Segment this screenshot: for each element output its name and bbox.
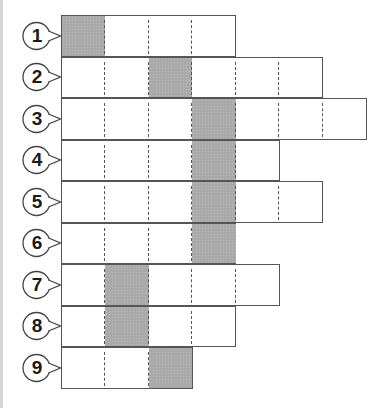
cell-divider [191, 20, 192, 54]
row-number-badge: 1 [22, 21, 62, 51]
row-number-label: 7 [23, 270, 51, 300]
cell-divider [278, 62, 279, 96]
cell-divider [104, 62, 105, 96]
row-number-label: 1 [23, 21, 51, 51]
cell-divider [148, 311, 149, 345]
cell-divider [148, 228, 149, 262]
cell-divider [104, 103, 105, 137]
row-number-label: 5 [23, 187, 51, 217]
cell-strip [61, 181, 323, 223]
row-number-label: 9 [23, 353, 51, 383]
cell-divider [104, 311, 105, 345]
row-number-label: 2 [23, 62, 51, 92]
shaded-cell [192, 182, 236, 222]
row-number-label: 3 [23, 104, 51, 134]
cell-divider [235, 145, 236, 179]
cell-strip [61, 98, 367, 140]
shaded-cell [192, 141, 236, 181]
cell-divider [235, 269, 236, 303]
cell-divider [191, 228, 192, 262]
shaded-cell [149, 58, 193, 98]
cell-divider [191, 145, 192, 179]
row-number-label: 6 [23, 228, 51, 258]
cell-divider [104, 269, 105, 303]
cell-strip [61, 223, 236, 265]
cell-divider [104, 20, 105, 54]
cell-divider [191, 62, 192, 96]
row-number-badge: 3 [22, 104, 62, 134]
cell-divider [148, 62, 149, 96]
cell-divider [191, 269, 192, 303]
cell-divider [278, 186, 279, 220]
shaded-cell [149, 348, 193, 388]
cell-divider [235, 186, 236, 220]
row-number-label: 8 [23, 311, 51, 341]
shaded-cell [62, 16, 106, 56]
cell-divider [148, 186, 149, 220]
cell-divider [148, 145, 149, 179]
cell-divider [191, 103, 192, 137]
cell-strip [61, 57, 323, 99]
cell-strip [61, 347, 193, 389]
cell-divider [278, 103, 279, 137]
row-number-badge: 5 [22, 187, 62, 217]
cell-strip [61, 15, 236, 57]
shaded-cell [105, 265, 149, 305]
shaded-cell [105, 307, 149, 347]
cell-divider [104, 352, 105, 386]
cell-divider [191, 186, 192, 220]
row-number-label: 4 [23, 145, 51, 175]
row-number-badge: 4 [22, 145, 62, 175]
shaded-grid-diagram: 1 2 3 [0, 0, 377, 408]
shaded-cell [192, 224, 236, 264]
cell-divider [148, 103, 149, 137]
row-number-badge: 8 [22, 311, 62, 341]
cell-divider [104, 145, 105, 179]
cell-divider [148, 352, 149, 386]
row-number-badge: 2 [22, 62, 62, 92]
cell-divider [104, 186, 105, 220]
row-number-badge: 9 [22, 353, 62, 383]
cell-strip [61, 140, 280, 182]
cell-divider [148, 269, 149, 303]
cell-divider [148, 20, 149, 54]
cell-divider [104, 228, 105, 262]
cell-divider [322, 103, 323, 137]
cell-strip [61, 264, 280, 306]
cell-divider [191, 311, 192, 345]
row-number-badge: 6 [22, 228, 62, 258]
cell-strip [61, 306, 236, 348]
cell-divider [235, 103, 236, 137]
cell-divider [235, 62, 236, 96]
row-number-badge: 7 [22, 270, 62, 300]
shaded-cell [192, 99, 236, 139]
